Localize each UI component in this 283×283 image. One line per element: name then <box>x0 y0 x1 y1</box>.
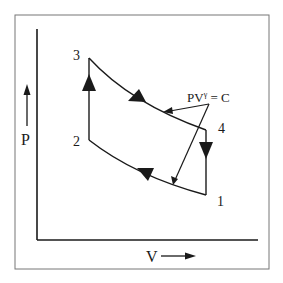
point-label-1: 1 <box>217 194 224 209</box>
pointer-arrowhead-icon <box>171 176 178 185</box>
v-axis-arrow-icon <box>161 253 196 260</box>
point-label-2: 2 <box>73 134 80 149</box>
p-axis-label: P <box>21 131 30 148</box>
arrow-up-icon <box>82 74 96 91</box>
v-axis-label: V <box>146 248 158 265</box>
pv-diagram: P V PVγ = C 3 2 4 1 <box>0 0 283 283</box>
p-axis-arrow-icon <box>24 84 31 126</box>
arrow-left-icon <box>137 168 154 181</box>
arrow-down-right-icon <box>128 89 146 102</box>
outer-frame <box>15 15 269 269</box>
point-label-3: 3 <box>73 48 80 63</box>
annotation-base: PV <box>187 90 204 105</box>
process-1-2 <box>89 140 206 195</box>
point-label-4: 4 <box>218 121 225 136</box>
arrow-down-icon <box>199 142 213 159</box>
annotation-rest: = C <box>207 90 230 105</box>
adiabatic-annotation: PVγ = C <box>187 90 230 105</box>
